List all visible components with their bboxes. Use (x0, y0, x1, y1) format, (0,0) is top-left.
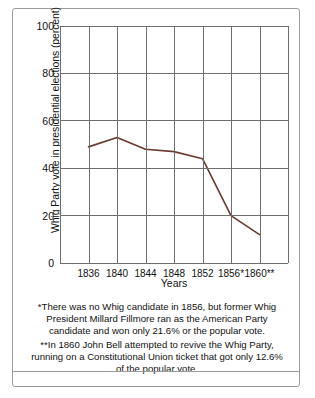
footnote-2: **In 1860 John Bell attempted to revive … (27, 339, 287, 375)
x-gridline (231, 26, 232, 263)
y-tick-label: 60 (42, 115, 54, 127)
y-tick-label: 0 (48, 257, 54, 269)
x-gridline (260, 26, 261, 263)
x-gridline (60, 26, 61, 263)
bottom-divider (13, 371, 299, 372)
y-tick-label: 20 (42, 210, 54, 222)
x-gridline (117, 26, 118, 263)
figure-frame: Whig Party vote in presidential election… (12, 8, 300, 387)
footnotes: *There was no Whig candidate in 1856, bu… (27, 301, 287, 376)
x-gridline (288, 26, 289, 263)
x-gridline (146, 26, 147, 263)
y-tick-label: 80 (42, 67, 54, 79)
x-gridline (203, 26, 204, 263)
chart-block: Whig Party vote in presidential election… (13, 9, 301, 294)
y-tick-label: 100 (36, 20, 54, 32)
x-gridline (89, 26, 90, 263)
footnote-1: *There was no Whig candidate in 1856, bu… (27, 301, 287, 337)
y-tick-label: 40 (42, 162, 54, 174)
plot-area: 020406080100183618401844184818521856*186… (60, 26, 288, 263)
x-axis-title: Years (60, 277, 288, 289)
plot-wrap: 020406080100183618401844184818521856*186… (60, 26, 288, 263)
x-gridline (174, 26, 175, 263)
